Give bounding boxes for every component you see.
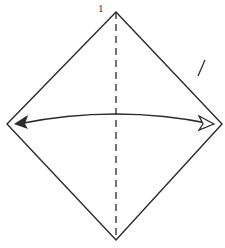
paper-square-diamond <box>7 12 222 240</box>
diagram-canvas <box>0 0 225 248</box>
slash-mark <box>198 60 205 76</box>
arrow-head-open-icon <box>199 116 214 130</box>
fold-arrow-curve <box>18 114 212 124</box>
step-number-label: 1 <box>98 2 104 14</box>
origami-diagram: 1 <box>0 0 225 248</box>
